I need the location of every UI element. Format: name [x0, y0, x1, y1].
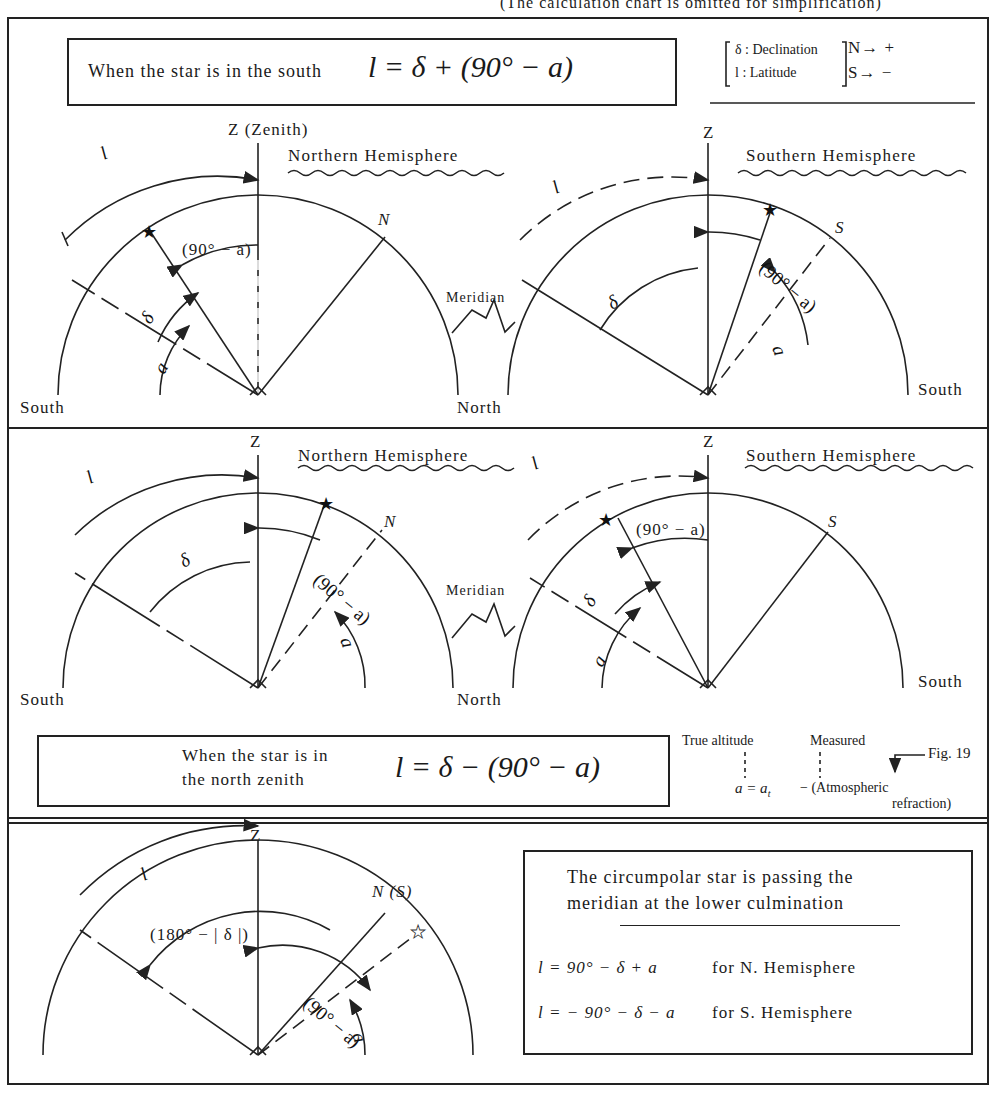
- svg-text:l: l: [83, 466, 97, 487]
- svg-text:a: a: [587, 651, 610, 670]
- svg-text:δ: δ: [136, 307, 159, 327]
- star-icon-s1-right: ★: [762, 199, 778, 220]
- svg-text:(90° − a): (90° − a): [755, 257, 821, 318]
- svg-text:l: l: [528, 452, 542, 473]
- svg-text:a: a: [149, 358, 172, 377]
- svg-text:a: a: [768, 342, 791, 358]
- svg-text:δ: δ: [604, 290, 623, 313]
- svg-text:l: l: [97, 142, 111, 163]
- svg-text:l: l: [549, 176, 563, 197]
- geometry-layer: ★ ★ ★ ★ ★ l δ a l δ a (90° − a) l δ a (9…: [0, 0, 995, 1094]
- hollow-star-icon-s3: ★: [410, 921, 426, 942]
- star-icon-s2-left: ★: [318, 493, 334, 514]
- star-icon-s2-right: ★: [598, 509, 614, 530]
- svg-text:δ: δ: [578, 590, 601, 610]
- star-icon-s1-left: ★: [141, 221, 157, 242]
- svg-text:a: a: [336, 634, 359, 650]
- svg-text:δ: δ: [176, 548, 195, 571]
- svg-text:l: l: [137, 863, 151, 884]
